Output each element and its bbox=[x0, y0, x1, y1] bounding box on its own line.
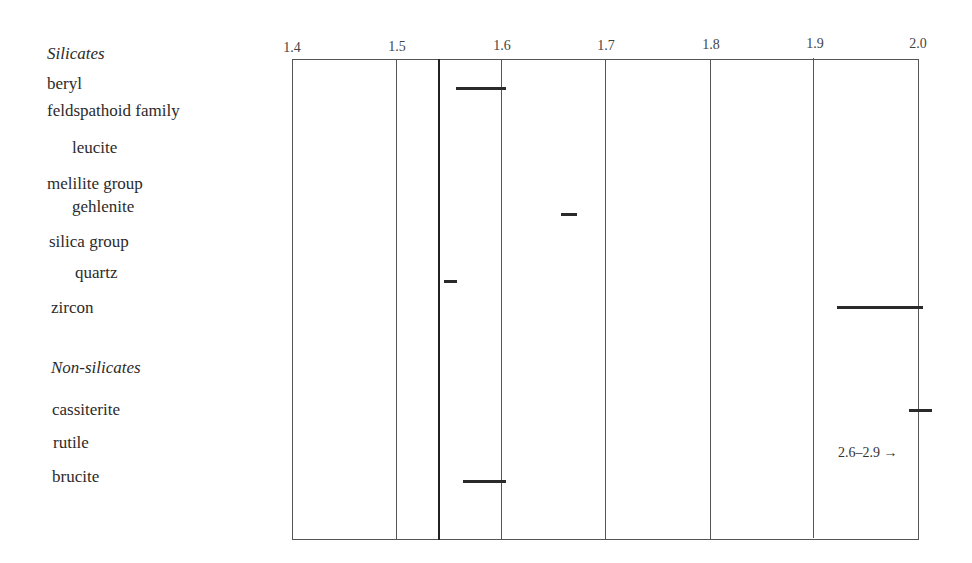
range-bar-gehlenite bbox=[561, 213, 577, 216]
range-bar-brucite bbox=[463, 480, 506, 483]
gridline-1-6 bbox=[501, 59, 502, 540]
row-label-gehlenite: gehlenite bbox=[72, 197, 134, 217]
row-label-leucite: leucite bbox=[72, 138, 117, 158]
x-tick-label: 1.5 bbox=[388, 39, 406, 55]
range-bar-zircon bbox=[837, 306, 923, 309]
reference-line-1-54 bbox=[438, 59, 440, 540]
gridline-1-5 bbox=[396, 59, 397, 540]
x-tick-label: 1.4 bbox=[283, 40, 301, 56]
x-tick-label: 1.6 bbox=[493, 38, 511, 54]
row-label-cassiterite: cassiterite bbox=[52, 400, 120, 420]
range-bar-beryl bbox=[456, 87, 506, 90]
row-label-feldspathoid-family: feldspathoid family bbox=[47, 101, 180, 121]
group-heading-silicates: Silicates bbox=[47, 44, 105, 64]
row-label-brucite: brucite bbox=[52, 467, 99, 487]
gridline-1-7 bbox=[605, 59, 606, 540]
x-tick-label: 2.0 bbox=[909, 36, 927, 52]
row-label-rutile: rutile bbox=[53, 433, 89, 453]
rutile-off-scale-annotation: 2.6–2.9 → bbox=[838, 445, 898, 461]
x-tick-label: 1.9 bbox=[806, 36, 824, 52]
row-label-silica-group: silica group bbox=[49, 232, 129, 252]
group-heading-non-silicates: Non-silicates bbox=[51, 358, 141, 378]
gridline-1-9 bbox=[813, 58, 814, 538]
row-label-zircon: zircon bbox=[51, 298, 93, 318]
gridline-1-8 bbox=[710, 59, 711, 539]
range-bar-cassiterite bbox=[909, 409, 932, 412]
row-label-quartz: quartz bbox=[75, 263, 117, 283]
range-bar-quartz bbox=[444, 280, 457, 283]
row-label-melilite-group: melilite group bbox=[47, 174, 143, 194]
x-tick-label: 1.7 bbox=[597, 38, 615, 54]
x-tick-label: 1.8 bbox=[702, 37, 720, 53]
row-label-beryl: beryl bbox=[47, 74, 82, 94]
refractive-index-chart: Silicates beryl feldspathoid family leuc… bbox=[0, 0, 972, 563]
